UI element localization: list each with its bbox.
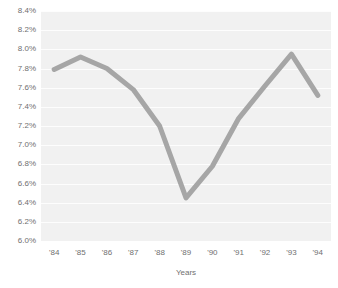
y-tick-label: 7.2% [18,122,36,130]
x-tick-label: '92 [260,248,270,258]
x-tick-label: '91 [234,248,244,258]
y-tick-label: 7.4% [18,103,36,111]
y-axis: 6.0%6.2%6.4%6.6%6.8%7.0%7.2%7.4%7.6%7.8%… [0,0,40,250]
y-tick-label: 6.4% [18,199,36,207]
y-tick-label: 6.0% [18,237,36,245]
y-tick-label: 6.6% [18,180,36,188]
y-tick-label: 8.0% [18,45,36,53]
y-tick-label: 7.8% [18,65,36,73]
x-axis: '84'85'86'87'88'89'90'91'92'93'94 [41,248,331,262]
x-axis-title: Years [41,268,331,278]
x-tick-label: '93 [286,248,296,258]
x-tick-label: '87 [128,248,138,258]
x-tick-label: '94 [313,248,323,258]
plot-area [41,11,331,241]
x-tick-label: '89 [181,248,191,258]
y-tick-label: 6.8% [18,160,36,168]
y-tick-label: 8.4% [18,7,36,15]
y-tick-label: 7.6% [18,84,36,92]
y-tick-label: 6.2% [18,218,36,226]
y-tick-label: 7.0% [18,141,36,149]
line-chart: 6.0%6.2%6.4%6.6%6.8%7.0%7.2%7.4%7.6%7.8%… [0,0,338,288]
x-tick-label: '85 [75,248,85,258]
data-series-line [41,11,331,241]
y-tick-label: 8.2% [18,26,36,34]
x-tick-label: '86 [102,248,112,258]
series-polyline [54,54,318,198]
x-tick-label: '88 [154,248,164,258]
x-tick-label: '90 [207,248,217,258]
x-tick-label: '84 [49,248,59,258]
